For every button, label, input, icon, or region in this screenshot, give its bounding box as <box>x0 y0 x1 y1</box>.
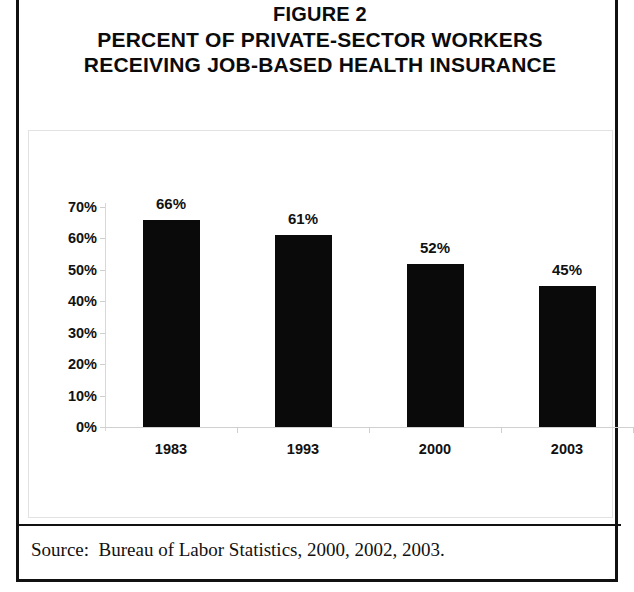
x-tick-label: 2000 <box>419 441 451 457</box>
x-tick-label: 2003 <box>551 441 583 457</box>
y-tick-label: 30% <box>35 325 97 341</box>
x-tick-mark <box>369 427 370 433</box>
y-axis-line <box>105 203 106 431</box>
title-line-1: FIGURE 2 <box>19 2 621 27</box>
y-tick-label: 50% <box>35 262 97 278</box>
title-line-2: PERCENT OF PRIVATE-SECTOR WORKERS <box>19 27 621 52</box>
bar <box>407 264 464 427</box>
y-tick-mark <box>100 238 105 239</box>
y-tick-mark <box>100 396 105 397</box>
bar <box>143 220 200 427</box>
y-tick-label: 10% <box>35 388 97 404</box>
bar-value-label: 61% <box>288 210 318 227</box>
x-tick-label: 1993 <box>287 441 319 457</box>
y-axis-tick-labels: 70%60%50%40%30%20%10%0% <box>29 131 97 517</box>
figure-frame: FIGURE 2 PERCENT OF PRIVATE-SECTOR WORKE… <box>16 0 618 582</box>
source-note: Source: Bureau of Labor Statistics, 2000… <box>31 539 445 561</box>
y-tick-mark <box>100 333 105 334</box>
bar <box>275 235 332 427</box>
y-tick-label: 0% <box>35 419 97 435</box>
x-tick-label: 1983 <box>155 441 187 457</box>
bar-value-label: 66% <box>156 195 186 212</box>
bar-value-label: 52% <box>420 239 450 256</box>
bar <box>539 286 596 427</box>
y-tick-mark <box>100 364 105 365</box>
y-tick-label: 40% <box>35 293 97 309</box>
y-tick-label: 20% <box>35 356 97 372</box>
title-line-3: RECEIVING JOB-BASED HEALTH INSURANCE <box>19 52 621 77</box>
x-tick-mark <box>237 427 238 433</box>
y-tick-mark <box>100 427 105 428</box>
y-tick-mark <box>100 301 105 302</box>
y-tick-label: 70% <box>35 199 97 215</box>
bar-chart: 70%60%50%40%30%20%10%0% 66%61%52%45% 198… <box>28 130 613 518</box>
source-divider <box>19 524 621 526</box>
bar-value-label: 45% <box>552 261 582 278</box>
x-tick-mark <box>501 427 502 433</box>
y-tick-mark <box>100 270 105 271</box>
y-tick-label: 60% <box>35 230 97 246</box>
y-tick-mark <box>100 207 105 208</box>
figure-title: FIGURE 2 PERCENT OF PRIVATE-SECTOR WORKE… <box>19 2 621 77</box>
